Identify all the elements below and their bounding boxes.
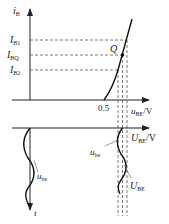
left-ube-label: ube <box>37 171 48 182</box>
ube-axis-label-lower: UBE/V <box>131 132 157 144</box>
ib-axis-label: iB <box>13 5 20 17</box>
ibq-label: IBQ <box>6 49 19 61</box>
right-ube-waveform <box>117 128 126 194</box>
ube-axis-label-upper: uBE/V <box>131 106 153 117</box>
transistor-input-characteristic-diagram: iB IB1 IBQ IB2 Q 0.5 uBE/V ube t ube UBE… <box>0 0 169 224</box>
dc-ube-label: UBE <box>130 180 145 192</box>
right-ube-leader <box>105 140 118 146</box>
q-point-dot <box>121 53 125 57</box>
q-point-label: Q <box>110 43 118 54</box>
left-ube-waveform <box>24 128 34 206</box>
ib1-label: IB1 <box>9 34 20 46</box>
threshold-label: 0.5 <box>98 103 110 113</box>
t-axis-label: t <box>34 208 37 218</box>
right-ube-label: ube <box>90 147 101 158</box>
ib2-label: IB2 <box>9 64 20 76</box>
